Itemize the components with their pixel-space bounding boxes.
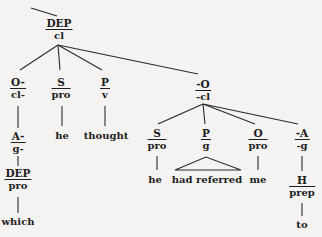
node-class: cl: [45, 30, 72, 42]
node-a2: -A -g: [295, 127, 310, 152]
leaf-to: to: [296, 219, 307, 231]
node-class: g-: [11, 143, 26, 155]
edge-root-o2: [58, 45, 198, 74]
node-function: P: [100, 76, 110, 89]
edge-o2-p2: [203, 104, 205, 124]
node-o2: -O -cl: [195, 78, 211, 103]
edge-o2-o3: [203, 104, 255, 124]
edge-root-s1: [58, 45, 60, 70]
node-function: DEP: [4, 167, 31, 180]
node-h1: H prep: [289, 174, 315, 199]
leaf-me: me: [250, 174, 267, 186]
node-function: S: [148, 127, 167, 140]
node-function: DEP: [45, 17, 72, 30]
edge-incoming-root: [31, 8, 57, 16]
node-class: pro: [4, 180, 31, 192]
node-class: cl-: [10, 89, 26, 101]
node-a1: A- g-: [11, 130, 26, 155]
node-class: v: [100, 89, 110, 101]
leaf-thought: thought: [84, 130, 129, 142]
node-class: prep: [289, 187, 315, 199]
node-function: -A: [295, 127, 310, 140]
node-o1: O- cl-: [10, 76, 26, 101]
node-dep2: DEP pro: [4, 167, 31, 192]
node-function: O: [249, 127, 268, 140]
node-function: S: [52, 76, 71, 89]
edge-o2-a2: [203, 104, 298, 124]
node-p2: P g: [201, 127, 211, 152]
node-function: H: [289, 174, 315, 187]
edge-p2-had-referred-triangle: [175, 157, 241, 170]
leaf-he: he: [148, 174, 162, 186]
edge-root-p1: [58, 45, 102, 70]
node-p1: P v: [100, 76, 110, 101]
edge-o2-s2: [158, 104, 203, 124]
node-class: pro: [148, 140, 167, 152]
node-o3: O pro: [249, 127, 268, 152]
node-function: A-: [11, 130, 26, 143]
node-function: P: [201, 127, 211, 140]
node-class: g: [201, 140, 211, 152]
node-function: O-: [10, 76, 26, 89]
node-class: -cl: [195, 91, 211, 103]
node-class: pro: [52, 89, 71, 101]
node-class: pro: [249, 140, 268, 152]
leaf-which: which: [1, 216, 34, 228]
leaf-he: he: [55, 130, 69, 142]
node-s2: S pro: [148, 127, 167, 152]
leaf-had-referred: had referred: [172, 174, 242, 186]
node-function: -O: [195, 78, 211, 91]
node-class: -g: [295, 140, 310, 152]
node-root: DEP cl: [45, 17, 72, 42]
node-s1: S pro: [52, 76, 71, 101]
edge-root-o1: [20, 45, 58, 70]
